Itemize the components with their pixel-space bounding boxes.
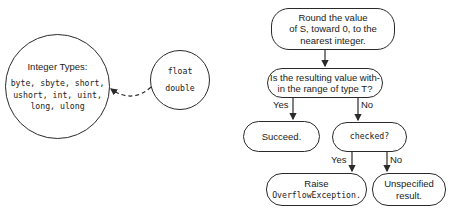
float-type-label: float [168,66,193,78]
integer-types-title: Integer Types: [27,61,87,73]
integer-types-line: ushort, int, uint, [13,90,102,102]
node-text: Succeed. [262,131,302,143]
integer-types-line: byte, sbyte, short, [11,78,105,90]
node-text: Raise [304,178,328,190]
raise-exception-node: Raise OverflowException. [266,173,367,206]
node-text: result. [396,190,422,202]
float-types-circle: float double [150,50,210,110]
node-text: OverflowException. [272,190,361,202]
integer-types-line: long, ulong [30,101,84,113]
succeed-node: Succeed. [243,121,320,152]
node-text: of S, toward 0, to the [289,23,377,35]
range-yes-label: Yes [273,99,289,110]
node-text: nearest integer. [300,35,366,47]
range-check-node: Is the resulting value with- in the rang… [267,68,383,98]
round-value-node: Round the value of S, toward 0, to the n… [271,8,395,50]
node-text: Unspecified [384,178,434,190]
checked-yes-label: Yes [331,154,347,165]
range-no-label: No [361,99,373,110]
node-text: in the range of type T? [278,83,373,95]
node-text: Is the resulting value with- [270,72,380,84]
unspecified-result-node: Unspecified result. [372,173,446,206]
double-type-label: double [165,83,195,95]
dashed-conversion-arrow [111,87,151,96]
checked-node: checked? [332,122,407,152]
checked-no-label: No [390,154,402,165]
node-text: checked? [350,131,389,143]
integer-types-circle: Integer Types: byte, sbyte, short, ushor… [5,34,110,139]
node-text: Round the value [298,12,367,24]
